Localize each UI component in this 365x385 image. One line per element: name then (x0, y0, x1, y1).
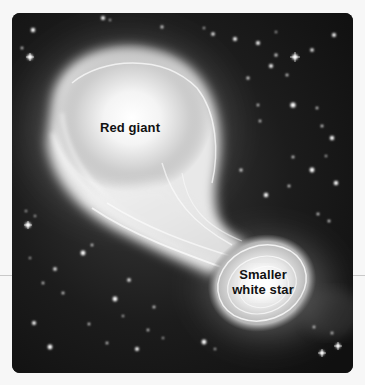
binary-star-illustration: Red giant Smaller white star (12, 13, 353, 373)
starfield-icon (12, 13, 353, 373)
white-star-label: Smaller white star (221, 267, 305, 297)
white-star-label-line2: white star (221, 282, 305, 297)
red-giant-label: Red giant (90, 120, 170, 135)
white-star-label-line1: Smaller (221, 267, 305, 282)
